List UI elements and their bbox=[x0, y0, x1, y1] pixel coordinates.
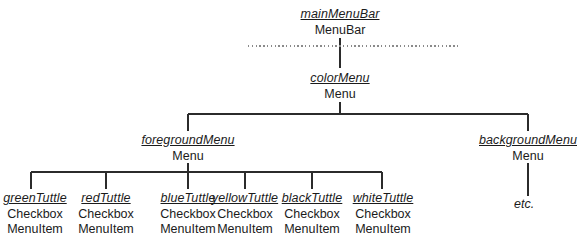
node-main-menu-bar[interactable]: mainMenuBar MenuBar bbox=[265, 4, 415, 38]
node-green-tuttle[interactable]: greenTuttle Checkbox MenuItem bbox=[0, 188, 70, 236]
class-name-green-tuttle-line2: MenuItem bbox=[0, 222, 70, 237]
instance-name-main-menu-bar: mainMenuBar bbox=[301, 7, 380, 22]
class-name-red-tuttle-line1: Checkbox bbox=[72, 207, 140, 222]
instance-name-color-menu: colorMenu bbox=[310, 71, 369, 86]
class-name-background-menu: Menu bbox=[478, 149, 578, 164]
node-white-tuttle[interactable]: whiteTuttle Checkbox MenuItem bbox=[345, 188, 421, 236]
object-diagram: mainMenuBar MenuBar colorMenu Menu foreg… bbox=[0, 0, 578, 240]
node-color-menu[interactable]: colorMenu Menu bbox=[275, 68, 405, 102]
etc-label: etc. bbox=[514, 197, 534, 211]
instance-name-white-tuttle: whiteTuttle bbox=[353, 191, 414, 206]
node-foreground-menu[interactable]: foregroundMenu Menu bbox=[118, 130, 258, 164]
class-name-green-tuttle-line1: Checkbox bbox=[0, 207, 70, 222]
node-red-tuttle[interactable]: redTuttle Checkbox MenuItem bbox=[72, 188, 140, 236]
class-name-black-tuttle-line1: Checkbox bbox=[274, 207, 350, 222]
class-name-white-tuttle-line2: MenuItem bbox=[345, 222, 421, 237]
class-name-color-menu: Menu bbox=[275, 87, 405, 102]
class-name-red-tuttle-line2: MenuItem bbox=[72, 222, 140, 237]
class-name-foreground-menu: Menu bbox=[118, 149, 258, 164]
instance-name-red-tuttle: redTuttle bbox=[81, 191, 130, 206]
instance-name-background-menu: backgroundMenu bbox=[479, 133, 577, 148]
instance-name-foreground-menu: foregroundMenu bbox=[141, 133, 234, 148]
instance-name-black-tuttle: blackTuttle bbox=[282, 191, 343, 206]
node-black-tuttle[interactable]: blackTuttle Checkbox MenuItem bbox=[274, 188, 350, 236]
instance-name-yellow-tuttle: yellowTuttle bbox=[212, 191, 278, 206]
instance-name-green-tuttle: greenTuttle bbox=[3, 191, 66, 206]
node-background-menu[interactable]: backgroundMenu Menu bbox=[478, 130, 578, 164]
class-name-main-menu-bar: MenuBar bbox=[265, 23, 415, 38]
class-name-black-tuttle-line2: MenuItem bbox=[274, 222, 350, 237]
class-name-white-tuttle-line1: Checkbox bbox=[345, 207, 421, 222]
